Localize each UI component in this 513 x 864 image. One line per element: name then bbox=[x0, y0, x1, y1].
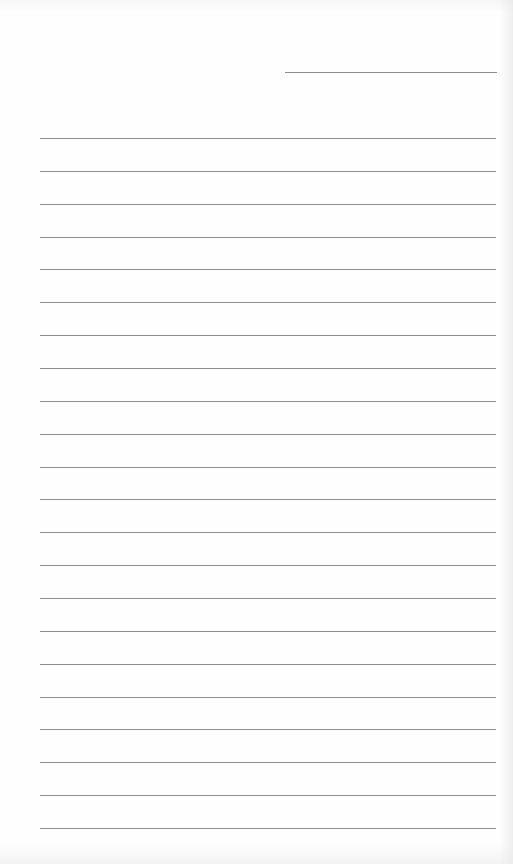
ruled-line bbox=[40, 697, 496, 698]
lined-paper-page bbox=[0, 0, 513, 864]
ruled-line bbox=[40, 828, 496, 829]
header-name-line bbox=[285, 72, 497, 73]
ruled-line bbox=[40, 565, 496, 566]
ruled-line bbox=[40, 401, 496, 402]
ruled-line bbox=[40, 138, 496, 139]
ruled-line bbox=[40, 729, 496, 730]
ruled-line bbox=[40, 237, 496, 238]
ruled-line bbox=[40, 631, 496, 632]
ruled-line bbox=[40, 598, 496, 599]
bottom-edge-shading bbox=[0, 844, 513, 864]
ruled-line bbox=[40, 532, 496, 533]
ruled-line bbox=[40, 664, 496, 665]
ruled-line bbox=[40, 762, 496, 763]
ruled-line bbox=[40, 368, 496, 369]
ruled-line bbox=[40, 204, 496, 205]
right-edge-shading bbox=[499, 0, 513, 864]
ruled-line bbox=[40, 467, 496, 468]
ruled-line bbox=[40, 499, 496, 500]
top-edge-shading bbox=[0, 0, 513, 12]
ruled-line bbox=[40, 434, 496, 435]
ruled-line bbox=[40, 335, 496, 336]
ruled-line bbox=[40, 795, 496, 796]
ruled-line bbox=[40, 269, 496, 270]
ruled-line bbox=[40, 171, 496, 172]
ruled-line bbox=[40, 302, 496, 303]
